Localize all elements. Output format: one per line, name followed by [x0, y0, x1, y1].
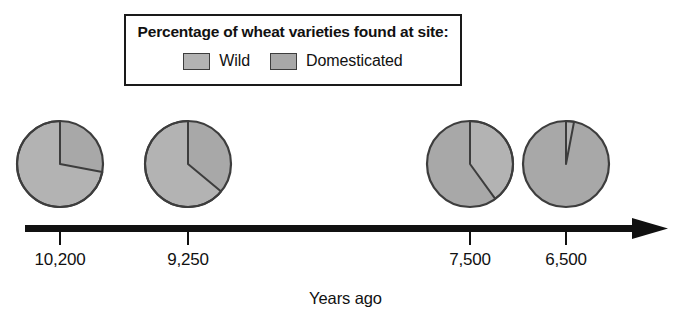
legend-entry-domesticated: Domesticated [270, 52, 403, 70]
legend: Percentage of wheat varieties found at s… [124, 14, 462, 86]
legend-swatch-icon-domesticated [270, 53, 297, 70]
tick-label: 9,250 [167, 250, 209, 270]
legend-label-domesticated: Domesticated [306, 52, 403, 70]
legend-title: Percentage of wheat varieties found at s… [126, 23, 460, 41]
legend-entry-wild: Wild [183, 52, 250, 70]
timeline-shaft [25, 225, 638, 232]
tick-label: 7,500 [449, 250, 491, 270]
tick-label: 6,500 [545, 250, 587, 270]
pie-chart-10200 [14, 118, 106, 210]
tick-marks [60, 232, 566, 245]
arrow-right-icon [632, 218, 668, 239]
wheat-varieties-timeline-figure: Percentage of wheat varieties found at s… [0, 0, 691, 329]
legend-label-wild: Wild [219, 52, 250, 70]
legend-items: Wild Domesticated [126, 52, 460, 70]
pie-chart-9250 [142, 118, 234, 210]
pie-chart-6500 [520, 118, 612, 210]
pie-chart-7500 [424, 118, 516, 210]
timeline-axis [0, 212, 691, 252]
axis-title: Years ago [0, 289, 691, 308]
legend-swatch-icon-wild [183, 53, 210, 70]
tick-label: 10,200 [35, 250, 86, 270]
